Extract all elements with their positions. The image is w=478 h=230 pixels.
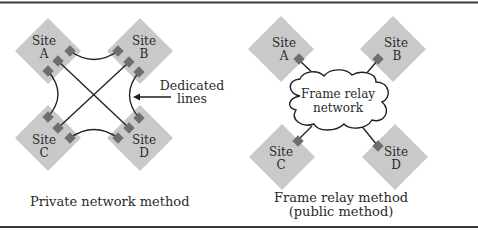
fr-site-d-letter: D (391, 158, 401, 172)
frame-relay-caption: Frame relay method (274, 190, 408, 205)
site-a-label: Site (32, 34, 56, 48)
network-comparison-diagram: Site A Site B Site C Site D Dedicated li… (0, 0, 478, 230)
private-network-panel: Site A Site B Site C Site D Dedicated li… (15, 18, 224, 209)
site-d-label: Site (132, 133, 156, 147)
fr-site-c-label: Site (269, 145, 293, 159)
site-d-letter: D (139, 146, 149, 160)
fr-site-d-label: Site (384, 145, 408, 159)
arrow-left-icon (133, 94, 171, 101)
fr-site-b-letter: B (393, 49, 402, 63)
private-network-caption: Private network method (30, 194, 190, 209)
fr-site-a-label: Site (272, 36, 296, 50)
fr-site-c-letter: C (276, 158, 285, 172)
site-c-label: Site (32, 133, 56, 147)
site-b-letter: B (140, 47, 149, 61)
frame-relay-panel: Frame relay network Site A Site B Site C… (248, 16, 428, 219)
site-a-letter: A (39, 47, 49, 61)
fr-site-b-label: Site (384, 36, 408, 50)
fr-site-a-letter: A (279, 49, 289, 63)
site-c-letter: C (39, 146, 48, 160)
dedicated-lines-label-2: lines (177, 91, 207, 106)
cloud-label-line2: network (313, 101, 364, 115)
site-b-label: Site (132, 34, 156, 48)
cloud-label-line1: Frame relay (301, 87, 375, 101)
frame-relay-caption-sub: (public method) (289, 204, 394, 219)
top-border (0, 2, 478, 4)
bottom-border (0, 226, 478, 228)
